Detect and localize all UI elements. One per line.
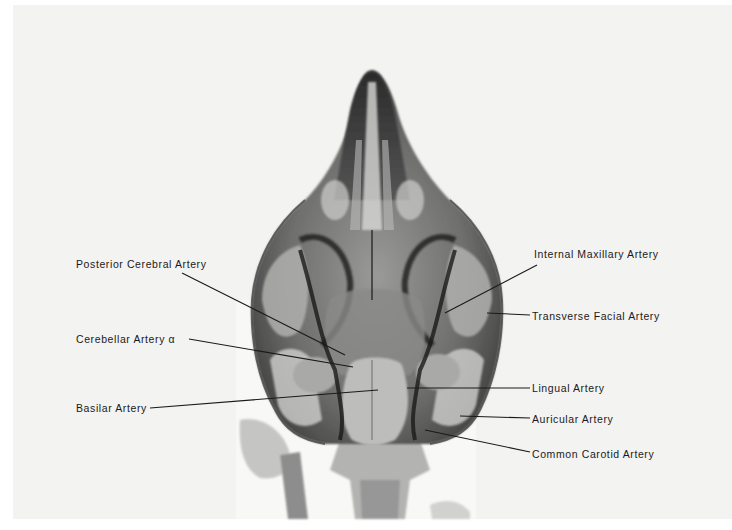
label-posterior-cerebral-artery: Posterior Cerebral Artery (76, 258, 207, 270)
label-transverse-facial-artery: Transverse Facial Artery (532, 310, 660, 322)
label-cerebellar-artery-alpha: Cerebellar Artery α (76, 333, 175, 345)
label-auricular-artery: Auricular Artery (532, 413, 613, 425)
label-internal-maxillary-artery: Internal Maxillary Artery (534, 248, 659, 260)
skull-body (252, 70, 503, 445)
label-common-carotid-artery: Common Carotid Artery (532, 448, 654, 460)
label-basilar-artery: Basilar Artery (76, 402, 147, 414)
label-lingual-artery: Lingual Artery (532, 382, 605, 394)
